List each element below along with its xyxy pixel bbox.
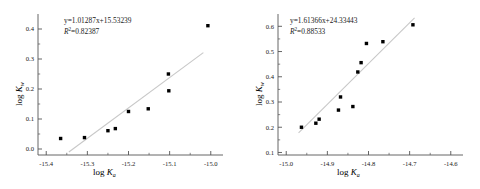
y-axis-tick-label: 0.5 [266, 48, 275, 55]
x-axis-tick-label: -15.2 [122, 160, 136, 167]
data-point-marker [339, 95, 342, 98]
y-axis-title-subscript-right: w [259, 82, 265, 86]
y-axis-title-symbol-right: K [254, 86, 264, 92]
data-point-marker [411, 23, 414, 26]
y-axis-tick-label: 0.3 [26, 55, 35, 62]
x-axis-tick-label: -14.7 [403, 160, 417, 167]
data-point-marker [167, 72, 170, 75]
equation-text-left: y=1.01287x+15.53239 [64, 16, 131, 26]
data-point-marker [114, 127, 117, 130]
data-point-marker [359, 61, 362, 64]
data-point-marker [147, 107, 150, 110]
equation-text-right: y=1.61366x+24.33443 [290, 16, 357, 26]
r-squared-value-right: =0.88533 [297, 28, 325, 37]
y-axis-tick-label: 0.1 [26, 115, 34, 122]
data-point-marker [356, 70, 359, 73]
y-axis-tick-label: 0.4 [266, 73, 275, 80]
x-axis-title-prefix-left: log [93, 167, 107, 177]
x-axis-title-symbol-right: K [351, 167, 357, 177]
x-axis-title-subscript-left: a [113, 172, 116, 178]
data-point-marker [106, 129, 109, 132]
x-axis-tick-label: -15.3 [80, 160, 94, 167]
data-point-marker [83, 136, 86, 139]
y-axis-title-prefix-right: log [254, 92, 264, 106]
x-axis-tick-label: -14.8 [362, 160, 376, 167]
y-axis-title-left: log Kw [14, 82, 24, 106]
r-squared-text-left: R2=0.82387 [64, 26, 131, 38]
x-axis-tick-label: -14.9 [320, 160, 334, 167]
y-axis-tick-label: 0.3 [266, 98, 275, 105]
x-axis-title-subscript-right: a [357, 172, 360, 178]
y-axis-title-right: log Kw [254, 82, 264, 106]
data-point-marker [337, 108, 340, 111]
data-point-marker [206, 24, 209, 27]
data-point-marker [300, 126, 303, 129]
regression-annotation-left: y=1.01287x+15.53239 R2=0.82387 [64, 16, 131, 38]
x-axis-tick-label: -15.1 [163, 160, 177, 167]
y-axis-title-symbol-left: K [14, 86, 24, 92]
y-axis-tick-label: 0.2 [26, 85, 34, 92]
data-point-marker [314, 122, 317, 125]
y-axis-tick-label: 0.0 [26, 145, 35, 152]
chart-panel-right: -15.0-14.9-14.8-14.7-14.60.10.20.30.40.5… [240, 0, 480, 189]
y-axis-title-subscript-left: w [19, 82, 25, 86]
data-point-marker [127, 110, 130, 113]
x-axis-tick-label: -15.0 [279, 160, 293, 167]
y-axis-tick-label: 0.4 [26, 25, 35, 32]
x-axis-tick-label: -14.6 [444, 160, 458, 167]
data-point-marker [365, 42, 368, 45]
regression-fit-line [69, 53, 204, 152]
r-squared-text-right: R2=0.88533 [290, 26, 357, 38]
r-squared-value-left: =0.82387 [71, 28, 99, 37]
plot-svg-right: -15.0-14.9-14.8-14.7-14.60.10.20.30.40.5… [240, 0, 480, 189]
data-point-marker [59, 137, 62, 140]
y-axis-tick-label: 0.1 [266, 149, 274, 156]
regression-annotation-right: y=1.61366x+24.33443 R2=0.88533 [290, 16, 357, 38]
data-point-marker [351, 105, 354, 108]
x-axis-title-symbol-left: K [107, 167, 113, 177]
y-axis-title-prefix-left: log [14, 92, 24, 106]
chart-panel-left: -15.4-15.3-15.2-15.1-15.00.00.10.20.30.4… [0, 0, 240, 189]
figure-two-scatter-plots: -15.4-15.3-15.2-15.1-15.00.00.10.20.30.4… [0, 0, 480, 189]
x-axis-title-right: log Ka [337, 167, 360, 177]
x-axis-tick-label: -15.0 [204, 160, 218, 167]
data-point-marker [317, 117, 320, 120]
x-axis-title-prefix-right: log [337, 167, 351, 177]
data-point-marker [167, 89, 170, 92]
y-axis-tick-label: 0.2 [266, 124, 274, 131]
x-axis-tick-label: -15.4 [39, 160, 53, 167]
y-axis-tick-label: 0.6 [266, 23, 275, 30]
data-point-marker [381, 40, 384, 43]
x-axis-title-left: log Ka [93, 167, 116, 177]
